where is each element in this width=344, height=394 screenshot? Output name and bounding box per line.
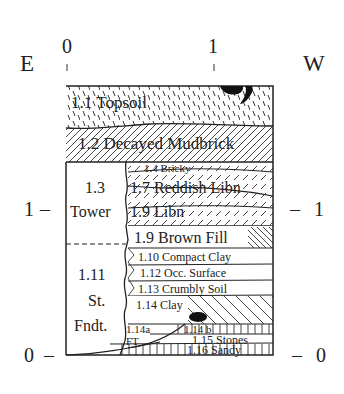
- layer-1-13-label: 1.13 Crumbly Soil: [138, 283, 227, 295]
- left-scale-1: 1: [24, 199, 34, 219]
- right-tick-1: –: [290, 199, 300, 219]
- layer-1-14a-label: 1.14a: [126, 324, 150, 335]
- left-scale-0: 0: [24, 345, 34, 365]
- layer-1-9-brown-fill-label: 1.9 Brown Fill: [134, 230, 228, 246]
- layer-ft-label: FT: [126, 336, 139, 347]
- left-tick-1: –: [40, 199, 50, 219]
- layer-1-14-label: 1.14 Clay: [136, 299, 183, 311]
- layer-1-16-label: 1.16 Sandy: [187, 344, 241, 356]
- right-tick-0: –: [292, 345, 302, 365]
- layer-1-7-label: 1.7 Reddish Libn: [130, 180, 241, 196]
- layer-1-12-label: 1.12 Occ. Surface: [140, 267, 226, 279]
- orientation-east: E: [20, 52, 34, 75]
- tower-name-label: Tower: [70, 204, 111, 220]
- top-scale-1: 1: [208, 36, 218, 56]
- section-drawing: [0, 0, 344, 394]
- left-tick-0: –: [44, 345, 54, 365]
- layer-1-2-label: 1.2 Decayed Mudbrick: [78, 135, 234, 152]
- layer-1-9-libn-label: 1.9 Libn: [130, 204, 184, 220]
- layer-1-4-label: 1.4 Bricky: [144, 163, 190, 174]
- right-scale-0: 0: [316, 345, 326, 365]
- top-scale-0: 0: [62, 36, 72, 56]
- layer-1-1-label: 1.1 Topsoil: [71, 94, 147, 111]
- foundation-abbrev-label: Fndt.: [74, 318, 107, 334]
- foundation-number-label: 1.11: [78, 267, 105, 283]
- right-scale-1: 1: [314, 199, 324, 219]
- orientation-west: W: [303, 52, 325, 75]
- tower-number-label: 1.3: [85, 180, 105, 196]
- layer-1-10-label: 1.10 Compact Clay: [138, 251, 231, 263]
- foundation-type-label: St.: [88, 293, 105, 309]
